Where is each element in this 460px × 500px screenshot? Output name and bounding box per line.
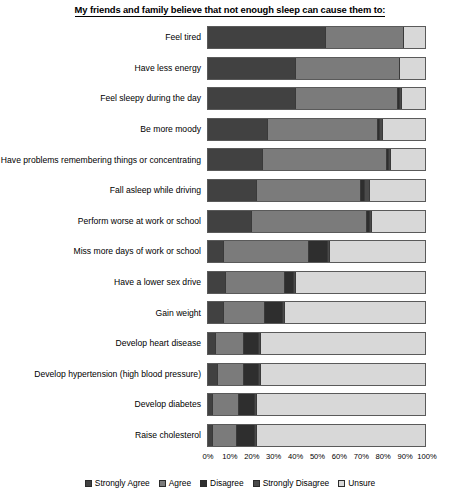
- bar-segment: [236, 425, 253, 446]
- bar-segment: [208, 211, 251, 232]
- bar-segment: [208, 272, 225, 293]
- stacked-bar: [207, 363, 426, 386]
- category-label: Have less energy: [0, 63, 207, 74]
- stacked-bar-chart: My friends and family believe that not e…: [0, 0, 460, 500]
- chart-row: Have problems remembering things or conc…: [0, 148, 460, 171]
- bar-segment: [208, 119, 267, 140]
- bar-segment: [284, 272, 293, 293]
- bar-segment: [390, 149, 425, 170]
- axis-tick-label: 50%: [310, 452, 325, 461]
- stacked-bar: [207, 424, 426, 447]
- bar-segment: [256, 180, 360, 201]
- bar-segment: [308, 241, 328, 262]
- bar-segment: [208, 27, 325, 48]
- legend-swatch-icon: [159, 480, 166, 487]
- bar-segment: [215, 333, 243, 354]
- chart-row: Raise cholesterol: [0, 424, 460, 447]
- chart-row: Feel tired: [0, 26, 460, 49]
- bar-segment: [251, 211, 366, 232]
- category-label: Perform worse at work or school: [0, 216, 207, 227]
- category-label: Develop heart disease: [0, 338, 207, 349]
- chart-row: Miss more days of work or school: [0, 240, 460, 263]
- bar-segment: [238, 394, 253, 415]
- stacked-bar: [207, 301, 426, 324]
- bar-segment: [401, 88, 425, 109]
- bar-segment: [262, 149, 386, 170]
- chart-title: My friends and family believe that not e…: [0, 4, 460, 15]
- category-label: Have a lower sex drive: [0, 277, 207, 288]
- axis-tick-label: 100%: [417, 452, 436, 461]
- legend-item: Unsure: [338, 478, 375, 488]
- bar-segment: [256, 394, 425, 415]
- bar-segment: [399, 58, 425, 79]
- chart-row: Be more moody: [0, 118, 460, 141]
- legend-item: Disagree: [200, 478, 244, 488]
- bar-segment: [217, 364, 243, 385]
- legend-item: Strongly Disagree: [253, 478, 330, 488]
- stacked-bar: [207, 118, 426, 141]
- bar-segment: [260, 364, 425, 385]
- category-label: Raise cholesterol: [0, 430, 207, 441]
- bar-segment: [208, 88, 295, 109]
- stacked-bar: [207, 148, 426, 171]
- chart-row: Fall asleep while driving: [0, 179, 460, 202]
- axis-tick-label: 70%: [354, 452, 369, 461]
- axis-tick-label: 0%: [203, 452, 214, 461]
- stacked-bar: [207, 271, 426, 294]
- legend-label: Unsure: [348, 478, 375, 488]
- bar-segment: [267, 119, 378, 140]
- legend-swatch-icon: [200, 480, 207, 487]
- bar-segment: [212, 394, 238, 415]
- axis-tick-label: 90%: [397, 452, 412, 461]
- category-label: Be more moody: [0, 124, 207, 135]
- legend-label: Strongly Disagree: [263, 478, 330, 488]
- bar-segment: [212, 425, 236, 446]
- category-label: Gain weight: [0, 308, 207, 319]
- bar-segment: [325, 27, 403, 48]
- chart-row: Feel sleepy during the day: [0, 87, 460, 110]
- bar-segment: [223, 241, 308, 262]
- plot-area: Feel tiredHave less energyFeel sleepy du…: [0, 24, 460, 448]
- stacked-bar: [207, 240, 426, 263]
- chart-title-text: My friends and family believe that not e…: [75, 4, 386, 17]
- axis-tick-label: 60%: [332, 452, 347, 461]
- axis-tick-label: 40%: [288, 452, 303, 461]
- chart-row: Have a lower sex drive: [0, 271, 460, 294]
- category-label: Develop diabetes: [0, 399, 207, 410]
- chart-row: Develop diabetes: [0, 393, 460, 416]
- category-label: Miss more days of work or school: [0, 246, 207, 257]
- bar-segment: [260, 333, 425, 354]
- chart-legend: Strongly AgreeAgreeDisagreeStrongly Disa…: [0, 478, 460, 488]
- chart-row: Perform worse at work or school: [0, 210, 460, 233]
- bar-segment: [223, 302, 264, 323]
- axis-tick-label: 10%: [222, 452, 237, 461]
- legend-swatch-icon: [85, 480, 92, 487]
- axis-tick-label: 30%: [266, 452, 281, 461]
- chart-row: Develop hypertension (high blood pressur…: [0, 363, 460, 386]
- bar-segment: [208, 58, 295, 79]
- chart-row: Develop heart disease: [0, 332, 460, 355]
- stacked-bar: [207, 26, 426, 49]
- legend-item: Agree: [159, 478, 191, 488]
- category-label: Feel sleepy during the day: [0, 93, 207, 104]
- bar-segment: [369, 180, 425, 201]
- bar-segment: [243, 364, 258, 385]
- category-label: Feel tired: [0, 32, 207, 43]
- bar-segment: [264, 302, 281, 323]
- chart-row: Gain weight: [0, 301, 460, 324]
- category-label: Develop hypertension (high blood pressur…: [0, 369, 207, 380]
- stacked-bar: [207, 87, 426, 110]
- bar-segment: [225, 272, 284, 293]
- x-axis: 0%10%20%30%40%50%60%70%80%90%100%: [207, 452, 428, 464]
- bar-segment: [382, 119, 425, 140]
- legend-swatch-icon: [338, 480, 345, 487]
- bar-segment: [208, 180, 256, 201]
- bar-segment: [243, 333, 258, 354]
- legend-label: Strongly Agree: [95, 478, 150, 488]
- stacked-bar: [207, 179, 426, 202]
- bar-segment: [329, 241, 424, 262]
- bar-segment: [403, 27, 425, 48]
- bar-segment: [208, 302, 223, 323]
- bar-segment: [295, 272, 425, 293]
- axis-tick-label: 20%: [244, 452, 259, 461]
